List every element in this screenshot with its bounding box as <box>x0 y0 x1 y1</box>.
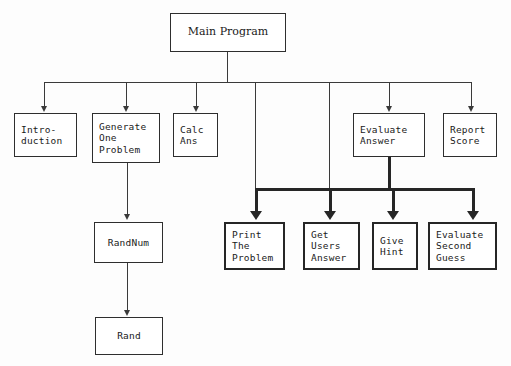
node-evaluate-second-guess[interactable]: Evaluate Second Guess <box>428 222 497 270</box>
edge-drop-generate-one-problem <box>126 82 127 107</box>
node-rand[interactable]: Rand <box>95 317 163 355</box>
node-give-hint-line-1: Hint <box>380 246 416 257</box>
node-report-score-line-1: Score <box>450 135 496 146</box>
node-evaluate-answer[interactable]: Evaluate Answer <box>353 113 425 157</box>
node-give-hint-line-0: Give <box>380 235 416 246</box>
node-get-users-answer-line-0: Get <box>311 229 358 240</box>
arrowhead-generate-one-problem <box>123 106 129 112</box>
node-generate-one-problem-line-0: Generate <box>99 121 159 132</box>
node-give-hint[interactable]: Give Hint <box>372 222 418 270</box>
node-main-program-line-0: Main Program <box>188 26 269 39</box>
edge-drop-evaluate-second-guess <box>472 188 475 212</box>
node-get-users-answer-line-2: Answer <box>311 252 358 263</box>
arrowhead-randnum <box>124 214 130 220</box>
arrowhead-print-the-problem <box>250 211 262 220</box>
node-print-the-problem[interactable]: Print The Problem <box>224 222 285 270</box>
node-generate-one-problem-line-2: Problem <box>99 144 159 155</box>
edge-main-stem <box>227 52 228 82</box>
node-evaluate-second-guess-line-1: Second <box>436 240 495 251</box>
node-introduction-line-1: duction <box>21 135 76 146</box>
edge-drop-calc-ans <box>196 82 197 107</box>
node-introduction[interactable]: Intro- duction <box>14 113 77 157</box>
edge-drop-print-the-problem <box>255 188 258 212</box>
node-report-score[interactable]: Report Score <box>443 113 497 157</box>
node-calc-ans[interactable]: Calc Ans <box>173 113 218 157</box>
edge-lower-bus <box>255 188 475 191</box>
structure-chart-diagram: Main Program Intro- duction Generate One… <box>0 0 511 366</box>
arrowhead-rand <box>124 310 130 316</box>
edge-drop-get-users-answer <box>329 188 332 212</box>
arrowhead-evaluate-answer <box>386 106 392 112</box>
edge-drop-report-score <box>471 82 472 107</box>
node-print-the-problem-line-1: The <box>232 240 283 251</box>
arrowhead-evaluate-second-guess <box>467 211 479 220</box>
node-evaluate-answer-line-0: Evaluate <box>360 124 424 135</box>
edge-evaluate-answer-to-bar <box>388 157 391 190</box>
edge-randnum-to-rand <box>127 263 128 311</box>
node-get-users-answer-line-1: Users <box>311 240 358 251</box>
node-evaluate-second-guess-line-2: Guess <box>436 252 495 263</box>
edge-drop-introduction <box>44 82 45 107</box>
edge-drop-evaluate-answer <box>389 82 390 107</box>
node-calc-ans-line-1: Ans <box>180 135 217 146</box>
arrowhead-introduction <box>41 106 47 112</box>
edge-main-to-lower-bar-right <box>329 82 330 189</box>
edge-generate-to-randnum <box>127 163 128 215</box>
node-print-the-problem-line-2: Problem <box>232 252 283 263</box>
arrowhead-give-hint <box>387 211 399 220</box>
edge-main-to-lower-bar-left <box>255 82 256 189</box>
node-evaluate-answer-line-1: Answer <box>360 135 424 146</box>
node-evaluate-second-guess-line-0: Evaluate <box>436 229 495 240</box>
node-introduction-line-0: Intro- <box>21 124 76 135</box>
edge-top-bus <box>44 82 472 83</box>
node-calc-ans-line-0: Calc <box>180 124 217 135</box>
node-rand-line-0: Rand <box>96 330 162 341</box>
arrowhead-get-users-answer <box>324 211 336 220</box>
node-generate-one-problem-line-1: One <box>99 132 159 143</box>
node-main-program[interactable]: Main Program <box>170 13 286 52</box>
node-print-the-problem-line-0: Print <box>232 229 283 240</box>
node-randnum-line-0: RandNum <box>95 237 162 248</box>
arrowhead-report-score <box>468 106 474 112</box>
edge-drop-give-hint <box>392 188 395 212</box>
node-report-score-line-0: Report <box>450 124 496 135</box>
arrowhead-calc-ans <box>193 106 199 112</box>
node-randnum[interactable]: RandNum <box>94 222 163 263</box>
node-get-users-answer[interactable]: Get Users Answer <box>303 222 360 270</box>
node-generate-one-problem[interactable]: Generate One Problem <box>92 113 160 163</box>
